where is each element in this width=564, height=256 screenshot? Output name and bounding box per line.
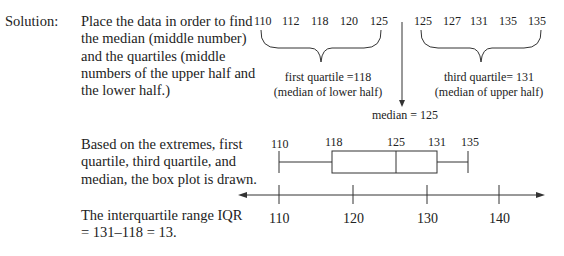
iqr-box [332, 151, 437, 173]
right-arrow-icon [536, 192, 545, 198]
diagram-graphics [0, 0, 564, 256]
median-arrow-head [399, 100, 405, 107]
lower-half-brace [261, 30, 381, 62]
left-arrow-icon [238, 192, 247, 198]
upper-half-brace [421, 30, 541, 62]
